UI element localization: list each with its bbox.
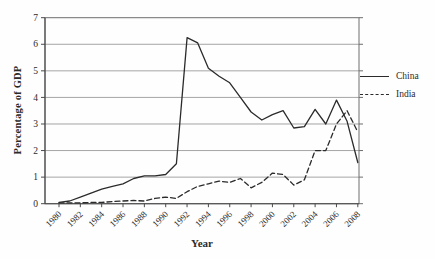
legend-item-china: China bbox=[360, 69, 419, 83]
y-tick-label: 1 bbox=[33, 172, 38, 182]
legend-label-china: China bbox=[396, 71, 419, 81]
china-solid-line-sample bbox=[360, 76, 389, 77]
chart-canvas: 0123456719801982198419861988199019921994… bbox=[0, 0, 435, 259]
x-tick-label: 2002 bbox=[278, 209, 298, 229]
x-tick-label: 1990 bbox=[150, 209, 170, 229]
x-axis-title: Year bbox=[191, 237, 213, 249]
plot-frame bbox=[45, 18, 359, 204]
y-tick-label: 4 bbox=[33, 93, 38, 103]
x-tick-label: 1980 bbox=[44, 209, 64, 229]
x-tick-label: 2006 bbox=[321, 209, 341, 229]
gdp-percentage-line-chart: 0123456719801982198419861988199019921994… bbox=[0, 0, 435, 259]
x-tick-label: 2000 bbox=[257, 209, 277, 229]
x-tick-label: 1982 bbox=[65, 209, 85, 229]
series-line-china bbox=[59, 38, 358, 203]
x-tick-label: 1996 bbox=[214, 209, 234, 229]
y-tick-label: 6 bbox=[33, 39, 38, 49]
y-axis-title: Percentage of GDP bbox=[12, 66, 23, 155]
x-tick-label: 2008 bbox=[342, 209, 362, 229]
legend-label-india: India bbox=[396, 89, 416, 99]
y-tick-label: 7 bbox=[33, 13, 38, 23]
legend: China India bbox=[360, 69, 419, 105]
y-tick-label: 5 bbox=[33, 66, 38, 76]
x-tick-label: 2004 bbox=[300, 209, 320, 229]
y-tick-label: 2 bbox=[33, 146, 38, 156]
x-tick-label: 1986 bbox=[108, 209, 128, 229]
x-tick-label: 1988 bbox=[129, 209, 149, 229]
india-dashed-line-sample bbox=[360, 94, 389, 95]
x-tick-label: 1994 bbox=[193, 209, 213, 229]
x-tick-label: 1998 bbox=[236, 209, 256, 229]
x-tick-label: 1992 bbox=[172, 209, 192, 229]
y-tick-label: 0 bbox=[33, 199, 38, 209]
legend-item-india: India bbox=[360, 87, 419, 101]
y-tick-label: 3 bbox=[33, 119, 38, 129]
x-tick-label: 1984 bbox=[86, 209, 106, 229]
